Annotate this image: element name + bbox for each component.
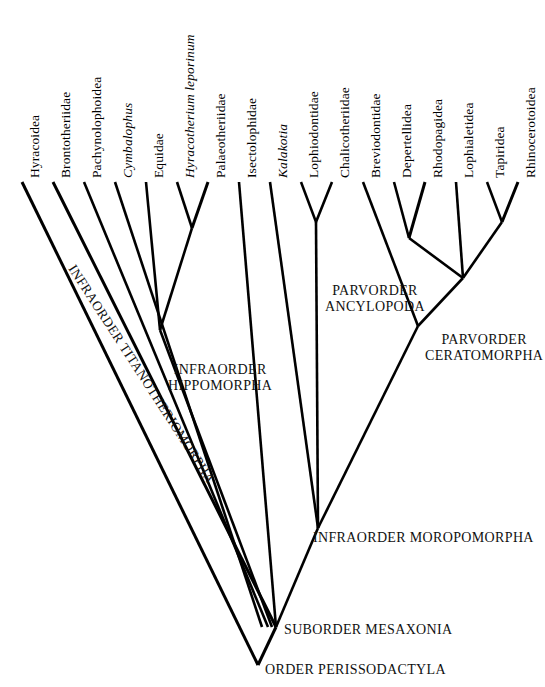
clade-label-line1: INFRAORDER	[168, 362, 272, 378]
tip-label-kalakotia: Kalakotia	[275, 124, 291, 178]
branch-line	[239, 182, 276, 627]
branch-line	[394, 182, 409, 238]
tip-label-breviodontidae: Breviodontidae	[368, 93, 384, 178]
clade-label-line1: PARVORDER	[425, 332, 543, 348]
tip-label-pachynolophoidea: Pachynolophoidea	[89, 77, 105, 178]
branch-line	[463, 222, 502, 278]
branch-line	[456, 182, 463, 278]
tip-label-lophiodontidae: Lophiodontidae	[306, 91, 322, 178]
branch-line	[177, 182, 192, 228]
tip-label-chalicotheriidae: Chalicotheriidae	[337, 87, 353, 178]
tip-label-brontotheriidae: Brontotheriidae	[58, 92, 74, 178]
branch-line	[160, 228, 192, 330]
clade-label-line1: INFRAORDER MOROPOMORPHA	[313, 530, 534, 546]
branch-line	[276, 528, 318, 627]
tip-label-palaeotheriidae: Palaeotheriidae	[213, 93, 229, 178]
clade-label-line1: PARVORDER	[325, 283, 425, 299]
tip-label-cymbalophus: Cymbalophus	[120, 103, 136, 178]
clade-label-line2: HIPPOMORPHA	[168, 378, 272, 394]
branch-line	[270, 182, 318, 528]
clade-label-line2: CERATOMORPHA	[425, 348, 543, 364]
branch-line	[487, 182, 502, 222]
tip-label-hyracoidea: Hyracoidea	[27, 115, 43, 178]
branch-line	[258, 627, 276, 665]
tip-label-lophialetidea: Lophialetidea	[461, 102, 477, 178]
tip-label-rhodopagidea: Rhodopagidea	[430, 99, 446, 178]
tip-label-equidae: Equidae	[151, 133, 167, 178]
clade-label-line2: ANCYLOPODA	[325, 299, 425, 315]
branch-line	[146, 182, 160, 330]
clade-label-ancylopoda: PARVORDERANCYLOPODA	[325, 283, 425, 314]
branch-line	[409, 182, 425, 238]
branch-line	[301, 182, 316, 222]
branch-line	[316, 182, 332, 222]
branch-line	[409, 238, 463, 278]
branch-line	[318, 326, 418, 528]
branch-group	[22, 182, 518, 665]
clade-label-ceratomorpha: PARVORDERCERATOMORPHA	[425, 332, 543, 363]
tip-label-isectolophidae: Isectolophidae	[244, 98, 260, 178]
branch-line	[316, 222, 318, 528]
cladogram-figure: HyracoideaBrontotheriidaePachynolophoide…	[0, 0, 545, 687]
tip-label-depertellidea: Depertellidea	[399, 104, 415, 178]
tip-label-hyracotherium: Hyracotherium leporinum	[182, 34, 198, 178]
clade-label-moropomorpha: INFRAORDER MOROPOMORPHA	[313, 530, 534, 546]
clade-label-line1: ORDER PERISSODACTYLA	[265, 662, 446, 678]
clade-label-perissodactyla: ORDER PERISSODACTYLA	[265, 662, 446, 678]
tip-label-rhinocerotoidea: Rhinocerotoidea	[523, 87, 539, 178]
tip-label-tapiridea: Tapiridea	[492, 126, 508, 178]
clade-label-mesaxonia: SUBORDER MESAXONIA	[284, 622, 452, 638]
branch-line	[192, 182, 208, 228]
clade-label-hippomorpha: INFRAORDERHIPPOMORPHA	[168, 362, 272, 393]
branch-line	[502, 182, 518, 222]
clade-label-line1: SUBORDER MESAXONIA	[284, 622, 452, 638]
